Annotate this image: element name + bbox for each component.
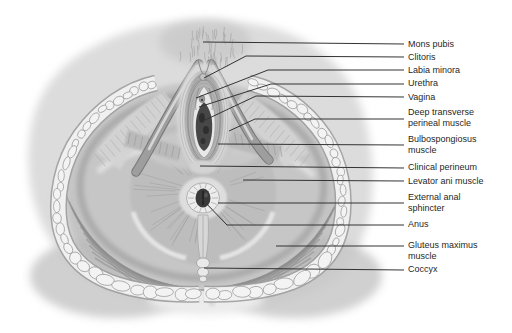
- coccyx-group: [197, 215, 210, 282]
- anus-group: [179, 177, 227, 219]
- perineum-illustration: [0, 0, 512, 333]
- figure-female-perineum: Mons pubis Clitoris Labia minora Urethra…: [0, 0, 512, 333]
- clinical-perineum-shape: [190, 160, 216, 174]
